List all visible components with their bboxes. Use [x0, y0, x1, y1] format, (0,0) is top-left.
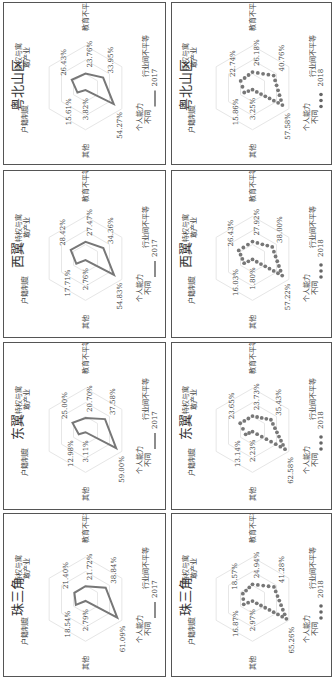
value-label-industry: 33.95% — [107, 47, 115, 74]
axis-label-other: 其他 — [248, 144, 257, 158]
radar-series-dot — [246, 243, 250, 247]
radar-series-dot — [241, 427, 245, 431]
value-label-industry: 35.43% — [275, 389, 283, 416]
chart-title: 西翼 — [10, 242, 25, 268]
axis-label-privilege: 特权与寓 — [14, 386, 23, 414]
axis-label-education: 教育不平等 — [81, 171, 90, 202]
value-label-other: 2.97% — [249, 609, 257, 632]
radar-series-dot — [246, 259, 250, 263]
radar-series-dot — [237, 249, 241, 253]
axis-label-industry: 行业间不平等 — [141, 206, 150, 248]
value-label-ability: 59.00% — [118, 456, 126, 483]
axis-label-privilege: 特权与寓 — [14, 214, 23, 242]
radar-panel-西翼-2018: 西翼户籍制度特权与寓敢产业教育不平等行业间不平等个人能力不同其他16.03%26… — [171, 170, 332, 338]
axis-label-privilege-2: 敢产业 — [189, 47, 198, 68]
axis-label-privilege-2: 敢产业 — [189, 217, 198, 238]
legend-label: 2017 — [151, 411, 159, 429]
axis-label-ability: 个人能力 — [135, 615, 144, 643]
axis-label-ability: 个人能力 — [135, 446, 144, 474]
radar-series-dot — [274, 590, 278, 594]
radar-series-dot — [278, 445, 282, 449]
value-label-industry: 38.00% — [276, 216, 284, 243]
radar-series-dot — [247, 73, 251, 77]
value-label-education: 21.72% — [86, 553, 94, 580]
radar-series-dot — [275, 259, 279, 263]
chart-title: 西翼 — [178, 242, 193, 268]
radar-series-dot — [277, 599, 281, 603]
legend-dot-icon — [319, 435, 323, 439]
axis-label-privilege-2: 敢产业 — [189, 558, 198, 579]
radar-series-dot — [241, 597, 245, 601]
radar-series-dot — [268, 608, 272, 612]
radar-series-dot — [263, 606, 267, 610]
axis-label-ability-2: 不同 — [144, 622, 152, 636]
radar-series-dot — [272, 585, 276, 589]
axis-label-other: 其他 — [81, 487, 90, 501]
legend-dot-icon — [319, 269, 323, 273]
radar-series-dot — [281, 103, 285, 107]
radar-series-dot — [251, 582, 255, 586]
radar-series-dot — [256, 583, 260, 587]
value-label-education: 26.18% — [253, 39, 261, 66]
radar-series-dot — [240, 257, 244, 261]
legend-label: 2018 — [317, 580, 325, 598]
axis-label-education: 教育不平等 — [248, 3, 257, 31]
radar-series-dot — [276, 88, 280, 92]
radar-series-dot — [285, 617, 289, 621]
axis-label-ability-2: 不同 — [311, 453, 319, 467]
radar-series-dot — [275, 430, 279, 434]
value-label-industry: 37.58% — [109, 388, 117, 415]
radar-series-dot — [241, 592, 245, 596]
axis-label-other: 其他 — [248, 656, 257, 670]
radar-series-dot — [275, 83, 279, 87]
value-label-ability: 57.58% — [284, 113, 292, 140]
radar-series-dot — [246, 89, 250, 93]
value-label-privilege: 26.43% — [227, 219, 235, 246]
value-label-education: 27.92% — [253, 209, 261, 236]
value-label-hukou: 18.54% — [64, 611, 72, 638]
axis-label-education: 教育不平等 — [248, 343, 257, 374]
legend-dot-icon — [319, 447, 323, 451]
radar-series-dot — [244, 432, 248, 436]
radar-series-dot — [276, 271, 280, 275]
value-label-other: 3.11% — [82, 440, 90, 463]
radar-series-dot — [251, 70, 255, 74]
radar-series-dot — [251, 240, 255, 244]
axis-label-ability-2: 不同 — [144, 281, 152, 295]
radar-series-dot — [272, 74, 276, 78]
axis-label-industry: 行业间不平等 — [308, 35, 317, 77]
radar-series-dot — [251, 88, 255, 92]
radar-series-dot — [251, 599, 255, 603]
axis-label-hukou: 户籍制度 — [20, 617, 29, 645]
radar-series-dot — [274, 255, 278, 259]
radar-series-dot — [267, 584, 271, 588]
radar-series-dot — [261, 72, 265, 76]
radar-series-dot — [243, 76, 247, 80]
axis-label-ability-2: 不同 — [311, 622, 319, 636]
radar-series-dot — [259, 92, 263, 96]
value-label-education: 27.47% — [86, 209, 94, 236]
axis-label-ability-2: 不同 — [144, 453, 152, 467]
value-label-ability: 65.26% — [288, 627, 296, 654]
radar-series-dot — [274, 442, 278, 446]
radar-series-dot — [238, 421, 242, 425]
value-label-education: 23.73% — [253, 383, 261, 410]
legend-dot-icon — [319, 105, 323, 109]
axis-label-industry: 行业间不平等 — [308, 547, 317, 589]
radar-series-dot — [270, 245, 274, 249]
radar-series-dot — [272, 269, 276, 273]
value-label-ability: 61.09% — [119, 625, 127, 652]
axis-label-privilege: 特权与寓 — [181, 214, 190, 242]
legend-dot-icon — [319, 441, 323, 445]
value-label-other: 3.82% — [82, 98, 90, 121]
value-label-hukou: 12.98% — [67, 440, 75, 467]
axis-label-other: 其他 — [248, 315, 257, 329]
value-label-hukou: 16.87% — [232, 610, 240, 637]
legend-dot-icon — [319, 99, 323, 103]
axis-label-education: 教育不平等 — [248, 514, 257, 543]
axis-label-privilege-2: 敢产业 — [189, 389, 198, 410]
radar-series-dot — [279, 439, 283, 443]
axis-label-privilege: 特权与寓 — [14, 43, 23, 71]
legend-dot-icon — [319, 610, 323, 614]
axis-label-other: 其他 — [81, 144, 90, 158]
